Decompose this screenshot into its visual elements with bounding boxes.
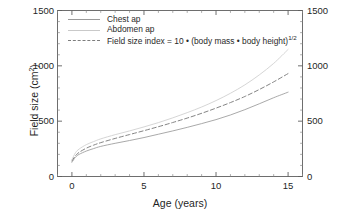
- y-axis-title-base: Field size (cm: [28, 72, 40, 137]
- legend-label-field-size-index-exponent: 1/2: [288, 34, 297, 41]
- legend-key-abdomen-ap-line-icon: [68, 25, 100, 35]
- axis-tick-label: 5: [129, 181, 159, 191]
- axis-tick-label: 0: [57, 181, 87, 191]
- axis-tick-label: 0: [307, 172, 345, 182]
- data-curves: [72, 49, 288, 162]
- legend-label-chest-ap: Chest ap: [107, 14, 141, 24]
- legend-item-chest-ap: Chest ap: [68, 14, 297, 24]
- axis-tick-label: 1000: [16, 61, 54, 71]
- axis-tick-label: 1000: [307, 61, 345, 71]
- chart-legend: Chest ap Abdomen ap Field size index = 1…: [68, 14, 297, 45]
- data-series-0: [72, 92, 288, 162]
- legend-item-field-size-index: Field size index = 10 • (body mass • bod…: [68, 35, 297, 45]
- figure-chart-field-size-vs-age: Field size (cm2) Age (years) 05001000150…: [0, 0, 347, 220]
- legend-label-field-size-index: Field size index = 10 • (body mass • bod…: [107, 33, 297, 46]
- axis-tick-label: 0: [16, 172, 54, 182]
- caption-fragment: [4, 212, 343, 220]
- legend-label-field-size-index-text: Field size index = 10 • (body mass • bod…: [107, 36, 288, 46]
- x-axis-title: Age (years): [57, 197, 303, 209]
- axis-tick-label: 15: [273, 181, 303, 191]
- legend-key-field-size-index-dashed-line-icon: [68, 35, 100, 45]
- axis-tick-label: 10: [201, 181, 231, 191]
- legend-key-chest-ap-line-icon: [68, 14, 100, 24]
- axis-tick-label: 500: [307, 116, 345, 126]
- data-series-1: [72, 49, 288, 159]
- axis-tick-label: 1500: [307, 6, 345, 16]
- axis-tick-label: 500: [16, 116, 54, 126]
- axis-tick-label: 1500: [16, 6, 54, 16]
- data-series-2: [72, 74, 288, 161]
